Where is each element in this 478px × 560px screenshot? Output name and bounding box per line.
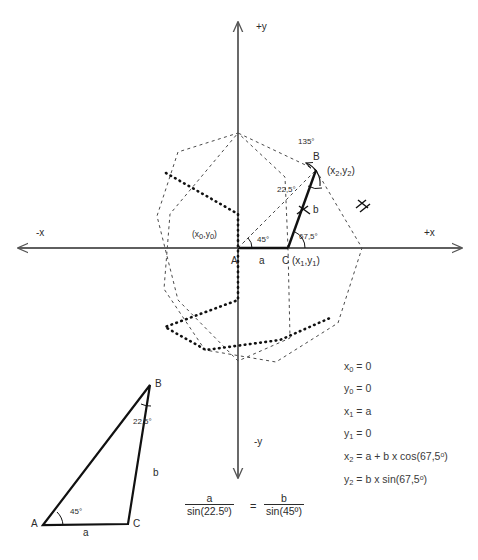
ref-side-label-b: b — [153, 468, 159, 478]
sine-rule-left-denominator: sin(22.5º) — [185, 504, 234, 517]
equation-x2: x2 = a + b x cos(67,5o) — [344, 446, 448, 469]
segment-label-a: a — [259, 256, 265, 266]
angle-label-135: 135° — [298, 138, 315, 146]
sine-rule-equals: = — [250, 500, 256, 512]
point-label-C: C (x1,y1) — [282, 256, 320, 268]
angle-label-22-5: 22,5° — [277, 186, 296, 194]
sine-rule-left-numerator: a — [185, 492, 234, 504]
equation-y1: y1 = 0 — [344, 424, 448, 446]
ref-side-label-a: a — [83, 528, 89, 538]
ref-angle-label-45: 45° — [70, 508, 82, 516]
axis-label-x-negative: -x — [36, 228, 44, 238]
diagram-canvas: +y -y +x -x A (x0,y0) C (x1,y1) B (x2,y2… — [0, 0, 478, 560]
point-label-A: A — [231, 256, 238, 266]
point-label-B: B — [313, 152, 320, 162]
equation-y0: y0 = 0 — [344, 379, 448, 401]
axis-label-y-positive: +y — [256, 22, 267, 32]
reference-triangle — [43, 385, 150, 525]
point-coord-A: (x0,y0) — [192, 230, 217, 241]
equation-x0: x0 = 0 — [344, 357, 448, 379]
sine-rule-left: a sin(22.5º) — [185, 492, 234, 517]
ref-vertex-label-B: B — [155, 379, 162, 389]
equation-y2: y2 = b x sin(67,5o) — [344, 469, 448, 492]
sine-rule-right-numerator: b — [264, 492, 304, 504]
axis-label-x-positive: +x — [424, 228, 435, 238]
point-coord-B: (x2,y2) — [327, 166, 355, 178]
congruence-ticks — [297, 200, 370, 214]
axis-label-y-negative: -y — [254, 437, 262, 447]
segment-label-b: b — [313, 205, 319, 215]
ref-vertex-label-A: A — [31, 519, 38, 529]
sine-rule-right: b sin(45º) — [264, 492, 304, 517]
ref-vertex-label-C: C — [133, 519, 140, 529]
sine-rule-right-denominator: sin(45º) — [264, 504, 304, 517]
ref-angle-label-22-5: 22,5° — [133, 418, 152, 426]
equation-list: x0 = 0 y0 = 0 x1 = a y1 = 0 x2 = a + b x… — [344, 357, 448, 493]
equation-x1: x1 = a — [344, 402, 448, 424]
angle-label-45-origin: 45° — [257, 236, 269, 244]
angle-label-67-5: 67,5° — [299, 233, 318, 241]
